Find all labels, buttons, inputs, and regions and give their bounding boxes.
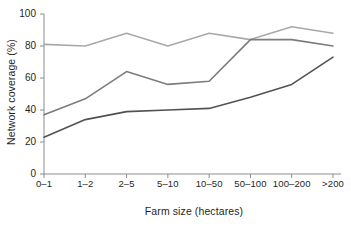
x-axis-tick-label: 10–50	[196, 178, 223, 189]
x-axis-tick-label: 1–2	[77, 178, 93, 189]
chart-figure: Network coverage (%) 020406080100 0–11–2…	[0, 0, 351, 229]
x-axis-tick-label: 50–100	[234, 178, 266, 189]
x-axis-tick-label: 2–5	[118, 178, 134, 189]
x-axis-tick-label: 0–1	[36, 178, 52, 189]
x-axis-title: Farm size (hectares)	[44, 205, 344, 217]
y-axis-tick-label: 0	[10, 169, 36, 179]
x-axis-tick-label: 100–200	[273, 178, 311, 189]
x-axis-tick-label: 5–10	[157, 178, 179, 189]
y-axis-tick-labels: 020406080100	[10, 0, 36, 229]
x-axis-tick-labels: 0–11–22–55–1010–5050–100100–200>200	[44, 178, 344, 194]
y-axis-tick-label: 80	[10, 41, 36, 51]
series-line-medium-gray-series	[44, 40, 333, 115]
y-axis-tick-label: 60	[10, 73, 36, 83]
y-axis-tick-label: 40	[10, 105, 36, 115]
x-axis-tick-label: >200	[322, 178, 344, 189]
chart-lines	[44, 14, 341, 174]
y-axis-tick-label: 100	[10, 9, 36, 19]
series-line-light-gray-series	[44, 27, 333, 46]
plot-area	[44, 14, 341, 174]
y-axis-tick-label: 20	[10, 137, 36, 147]
